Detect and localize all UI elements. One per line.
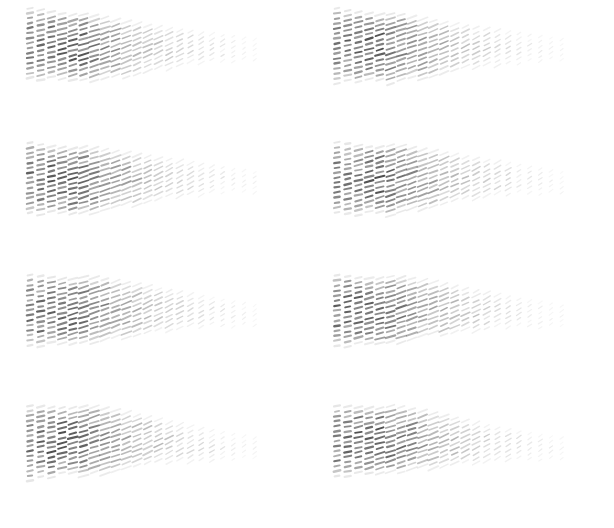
glyph-panel xyxy=(0,132,307,264)
panel-grid xyxy=(0,0,614,528)
glyph-panel-canvas xyxy=(307,396,614,528)
glyph-panel-canvas xyxy=(307,264,614,396)
glyph-panel-canvas xyxy=(0,396,307,528)
glyph-panel xyxy=(307,132,614,264)
glyph-panel-canvas xyxy=(307,132,614,264)
glyph-panel xyxy=(0,264,307,396)
glyph-panel xyxy=(0,0,307,132)
glyph-panel xyxy=(307,264,614,396)
figure-root xyxy=(0,0,614,528)
glyph-panel xyxy=(307,396,614,528)
glyph-panel xyxy=(0,396,307,528)
glyph-panel-canvas xyxy=(0,132,307,264)
glyph-panel xyxy=(307,0,614,132)
glyph-panel-canvas xyxy=(307,0,614,132)
glyph-panel-canvas xyxy=(0,264,307,396)
glyph-panel-canvas xyxy=(0,0,307,132)
